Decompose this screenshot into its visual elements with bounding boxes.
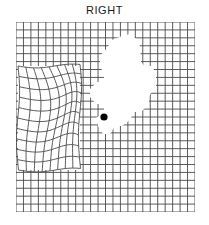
distorted-grid-region — [16, 64, 81, 172]
amsler-grid-area — [16, 22, 195, 212]
amsler-grid-svg — [16, 22, 195, 212]
chart-title: RIGHT — [0, 4, 209, 17]
amsler-grid-chart: RIGHT — [0, 0, 209, 225]
central-fixation-dot — [100, 113, 107, 120]
